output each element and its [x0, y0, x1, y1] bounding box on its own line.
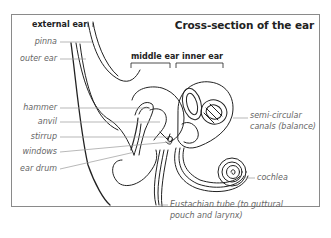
- label-eustachian-2: pouch and larynx): [170, 211, 243, 220]
- label-cochlea: cochlea: [257, 173, 288, 182]
- label-semicircular-2: canals (balance): [250, 122, 316, 131]
- label-eustachian-1: Eustachian tube (to guttural: [170, 200, 283, 209]
- label-pinna: pinna: [35, 37, 57, 46]
- section-external-ear: external ear: [32, 20, 87, 29]
- section-middle-ear: middle ear: [131, 52, 179, 61]
- cochlea-ring-3: [227, 166, 240, 179]
- cochlea-center: [231, 170, 235, 175]
- ear-drum-leader: [60, 152, 135, 169]
- label-semicircular-1: semi-circular: [250, 111, 302, 120]
- middle-ear-bracket: [131, 63, 170, 68]
- windows-leader: [60, 142, 170, 152]
- label-stirrup: stirrup: [31, 132, 57, 141]
- label-ear-drum: ear drum: [20, 164, 57, 173]
- label-outer-ear: outer ear: [20, 54, 57, 63]
- semicircular-canal-1-inner: [184, 92, 199, 116]
- inner-ear-bracket: [176, 63, 223, 68]
- hammer-bone: [135, 102, 153, 155]
- semicircular-canal-1: [179, 86, 205, 122]
- label-windows: windows: [22, 147, 57, 156]
- label-anvil: anvil: [38, 117, 57, 126]
- diagram-title: Cross-section of the ear: [175, 19, 314, 31]
- label-hammer: hammer: [23, 103, 57, 112]
- section-inner-ear: inner ear: [182, 52, 223, 61]
- vestibule: [182, 122, 198, 143]
- semicircular-canal-2-inner: [204, 103, 224, 122]
- ear-canal-wall-outer: [71, 43, 110, 205]
